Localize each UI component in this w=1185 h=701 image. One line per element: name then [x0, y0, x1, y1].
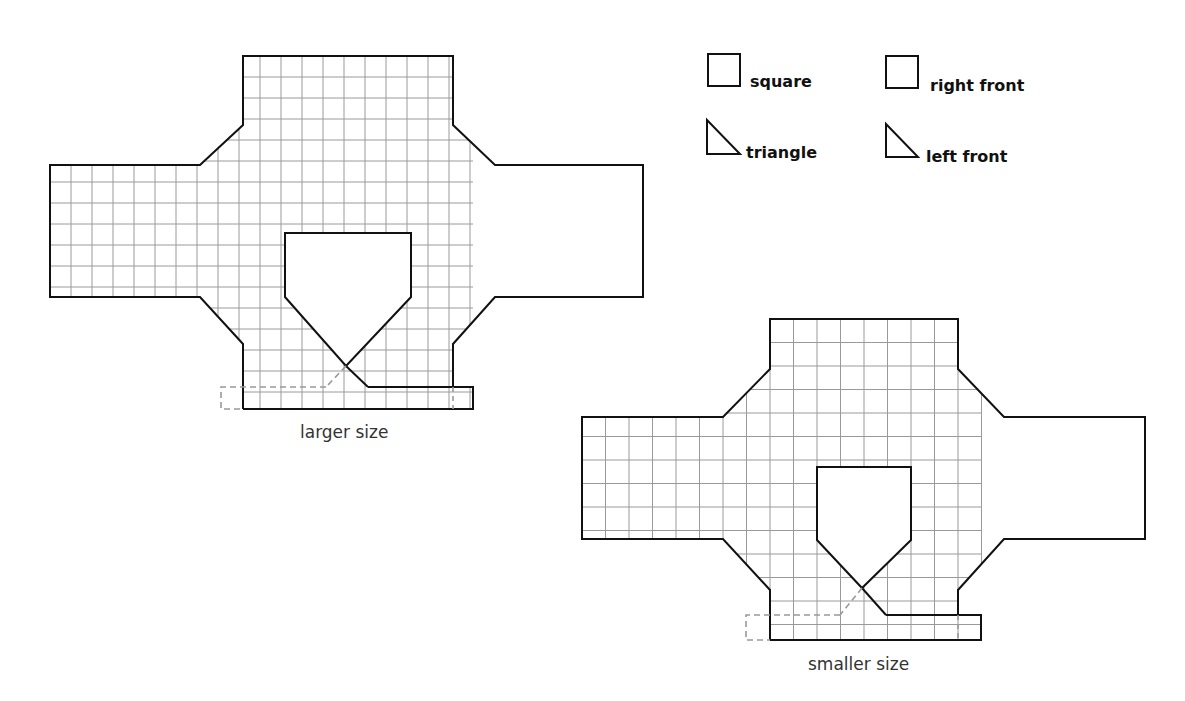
smaller-shape-cutout	[817, 467, 911, 588]
caption-larger-size: larger size	[300, 422, 388, 442]
legend-label-left-front: left front	[926, 147, 1007, 166]
smaller-shape-grid	[582, 319, 982, 640]
legend-label-triangle: triangle	[746, 143, 817, 162]
legend-label-right-front: right front	[930, 76, 1024, 95]
larger-shape-cutout	[285, 233, 411, 366]
square-icon	[708, 54, 740, 86]
larger-shape-dashed-flap	[221, 387, 326, 409]
triangle-icon	[707, 120, 740, 154]
smaller-shape-base-strip	[770, 615, 981, 640]
left-front-triangle-icon	[886, 124, 918, 157]
caption-smaller-size: smaller size	[808, 654, 909, 674]
legend-label-square: square	[750, 72, 812, 91]
larger-shape-base-strip	[243, 387, 473, 409]
pattern-diagram-canvas	[0, 0, 1185, 701]
right-front-square-icon	[886, 56, 918, 88]
